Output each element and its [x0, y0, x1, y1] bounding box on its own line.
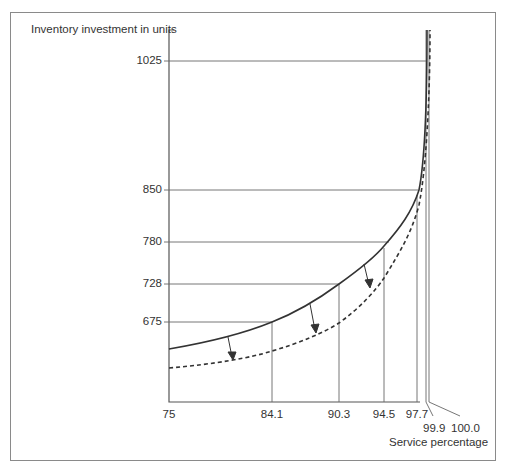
- axis-lines: [169, 30, 420, 402]
- x-tick-94-5: 94.5: [373, 409, 395, 421]
- solid-curve: [169, 30, 427, 349]
- x-axis-label: Service percentage: [389, 437, 488, 449]
- x-tick-99-9: 99.9: [423, 423, 445, 435]
- y-tick-728: 728: [102, 278, 162, 290]
- horizontal-reference-lines: [164, 61, 426, 322]
- label-leader-lines: [426, 402, 460, 416]
- x-tick-75: 75: [163, 409, 176, 421]
- axes: [169, 30, 420, 402]
- vertical-reference-lines: [272, 30, 429, 402]
- y-tick-780: 780: [102, 236, 162, 248]
- y-tick-675: 675: [102, 316, 162, 328]
- y-axis-label: Inventory investment in units: [31, 24, 177, 36]
- x-tick-84-1: 84.1: [261, 409, 283, 421]
- x-tick-97-7: 97.7: [406, 409, 428, 421]
- chart-plot: [0, 0, 505, 471]
- y-tick-1025: 1025: [102, 55, 162, 67]
- reduction-arrows: [228, 264, 373, 360]
- x-tick-100-0: 100.0: [451, 423, 480, 435]
- dashed-curve: [169, 30, 430, 368]
- x-tick-90-3: 90.3: [328, 409, 350, 421]
- y-tick-850: 850: [102, 184, 162, 196]
